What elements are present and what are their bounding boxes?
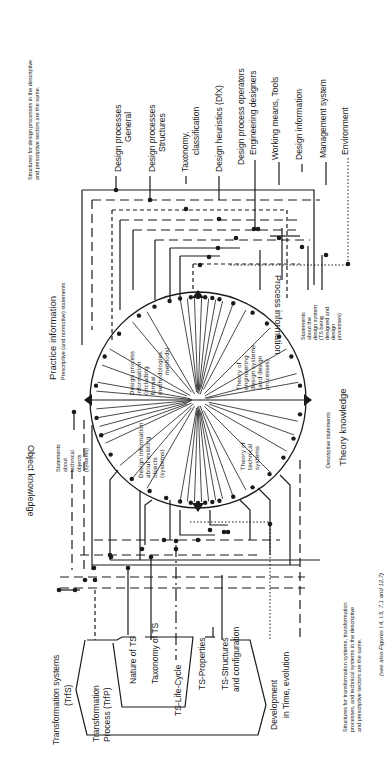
svg-text:about: about: [62, 458, 68, 472]
svg-text:(see also Figures I.4, I.5, 7.: (see also Figures I.4, I.5, 7.1 and 12.7…: [378, 573, 384, 676]
svg-text:Management system: Management system: [318, 79, 328, 158]
caption-bottom: Structures for transformation systems, t…: [342, 602, 362, 732]
svg-text:methods): methods): [164, 347, 170, 375]
svg-text:Environment: Environment: [340, 107, 350, 155]
theory-knowledge-label: Descriptive statements Theory knowledge: [325, 388, 348, 468]
svg-text:Design information: Design information: [138, 422, 145, 478]
svg-text:Structures: Structures: [157, 113, 167, 152]
svg-text:Engineering designers: Engineering designers: [248, 70, 258, 155]
practice-information-label: Practice information Prescriptive (and n…: [47, 283, 66, 380]
ts-side-labels: Transformation systems (TrfS) Transforma…: [51, 622, 291, 745]
svg-text:(systems): (systems): [159, 449, 166, 478]
svg-text:Descriptive statements: Descriptive statements: [325, 412, 331, 468]
svg-text:Theory of: Theory of: [240, 441, 247, 471]
svg-text:processes): processes): [264, 359, 271, 390]
svg-text:about existing: about existing: [145, 436, 152, 478]
axis-marker-left: [84, 394, 92, 406]
svg-text:systems: systems: [254, 446, 261, 470]
caption-top: Structures for design processes in the d…: [27, 60, 40, 180]
svg-text:TS-Properties: TS-Properties: [197, 638, 207, 690]
svg-text:and prescriptive sectors are t: and prescriptive sectors are the same.: [34, 86, 40, 180]
svg-text:objects: objects: [76, 454, 82, 472]
svg-text:technical: technical: [69, 450, 75, 472]
svg-text:Theory of: Theory of: [236, 361, 243, 391]
svg-text:(and design: (and design: [257, 355, 264, 390]
svg-text:information: information: [136, 361, 142, 395]
svg-text:General: General: [123, 112, 133, 142]
svg-text:TS-Life-Cycle: TS-Life-Cycle: [173, 664, 183, 716]
svg-text:Process information: Process information: [273, 275, 283, 355]
svg-text:(TrfS): (TrfS): [63, 684, 73, 706]
svg-text:in Time, evolution: in Time, evolution: [281, 652, 291, 718]
svg-text:technical: technical: [247, 443, 253, 470]
object-knowledge-label: Object knowledge Statements about techni…: [26, 444, 89, 517]
svg-text:Statements: Statements: [55, 444, 61, 472]
svg-text:Nature of TS: Nature of TS: [128, 636, 138, 684]
axis-marker-right: [304, 394, 312, 406]
svg-text:Process (TrfP): Process (TrfP): [102, 687, 112, 742]
svg-text:(including: (including: [143, 366, 150, 395]
svg-text:engineering: engineering: [243, 355, 250, 390]
svg-text:Design processes: Design processes: [147, 104, 157, 172]
svg-text:processes, and technical syste: processes, and technical systems in the …: [349, 607, 355, 732]
svg-text:Structures for design processe: Structures for design processes in the d…: [27, 60, 33, 180]
svg-text:classification: classification: [191, 107, 201, 155]
svg-text:processes): processes): [336, 313, 342, 340]
svg-text:design systems: design systems: [250, 345, 257, 390]
svg-text:and configuration: and configuration: [231, 627, 241, 692]
svg-text:Design processes: Design processes: [113, 104, 123, 172]
design-science-map: Structures for design processes in the d…: [0, 0, 389, 780]
svg-text:Working means, Tools: Working means, Tools: [270, 77, 280, 160]
svg-text:objects: objects: [152, 457, 159, 478]
svg-text:formal: formal: [150, 376, 156, 395]
svg-text:Transformation systems: Transformation systems: [51, 655, 61, 745]
svg-text:Development: Development: [269, 679, 279, 730]
svg-text:Transformation: Transformation: [91, 685, 101, 742]
svg-text:methodologies,: methodologies,: [157, 350, 164, 395]
design-side-labels: Design processes General Design processe…: [113, 68, 350, 172]
svg-text:Design heuristics (DfX): Design heuristics (DfX): [214, 85, 224, 172]
see-also-note: (see also Figures I.4, I.5, 7.1 and 12.7…: [378, 573, 384, 676]
svg-text:Design process: Design process: [129, 351, 136, 395]
svg-text:Structures for transformation: Structures for transformation systems, t…: [342, 602, 348, 732]
svg-text:Prescriptive (and normative) s: Prescriptive (and normative) statements: [60, 283, 66, 380]
svg-text:Taxonomy of TS: Taxonomy of TS: [150, 622, 160, 684]
svg-text:Design process operators: Design process operators: [236, 68, 246, 165]
svg-text:Object knowledge: Object knowledge: [26, 445, 36, 517]
svg-text:and prescriptive sectors are t: and prescriptive sectors are the same.: [356, 638, 362, 732]
svg-text:Practice information: Practice information: [47, 296, 58, 380]
svg-text:Theory knowledge: Theory knowledge: [337, 388, 348, 466]
svg-text:Design information: Design information: [294, 89, 304, 160]
svg-text:TS-Structures: TS-Structures: [220, 638, 230, 690]
svg-text:Taxonomy,: Taxonomy,: [180, 132, 190, 172]
